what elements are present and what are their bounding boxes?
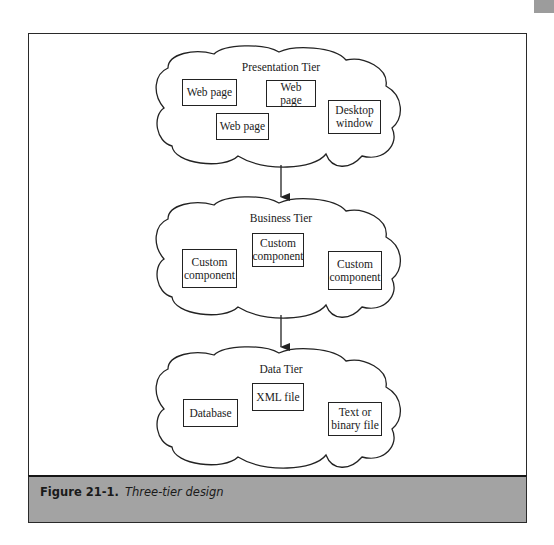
presentation-tier-title: Presentation Tier	[242, 61, 320, 73]
desktop-window-box: Desktop window	[328, 100, 381, 134]
custom-component-box-2: Custom component	[252, 233, 304, 267]
figure-caption: Three-tier design	[125, 485, 224, 499]
xml-file-box: XML file	[252, 383, 304, 411]
web-page-box-1: Web page	[182, 79, 237, 106]
business-tier-title: Business Tier	[250, 212, 312, 224]
figure-caption-band: Figure 21-1. Three-tier design	[28, 475, 527, 523]
data-tier-title: Data Tier	[259, 363, 302, 375]
custom-component-box-3: Custom component	[328, 251, 382, 290]
figure-label: Figure 21-1.	[40, 485, 119, 499]
custom-component-box-1: Custom component	[182, 249, 237, 288]
web-page-box-3: Web page	[216, 113, 269, 140]
database-box: Database	[183, 399, 238, 427]
web-page-box-2: Web page	[266, 80, 316, 107]
text-or-binary-file-box: Text or binary file	[328, 402, 382, 436]
